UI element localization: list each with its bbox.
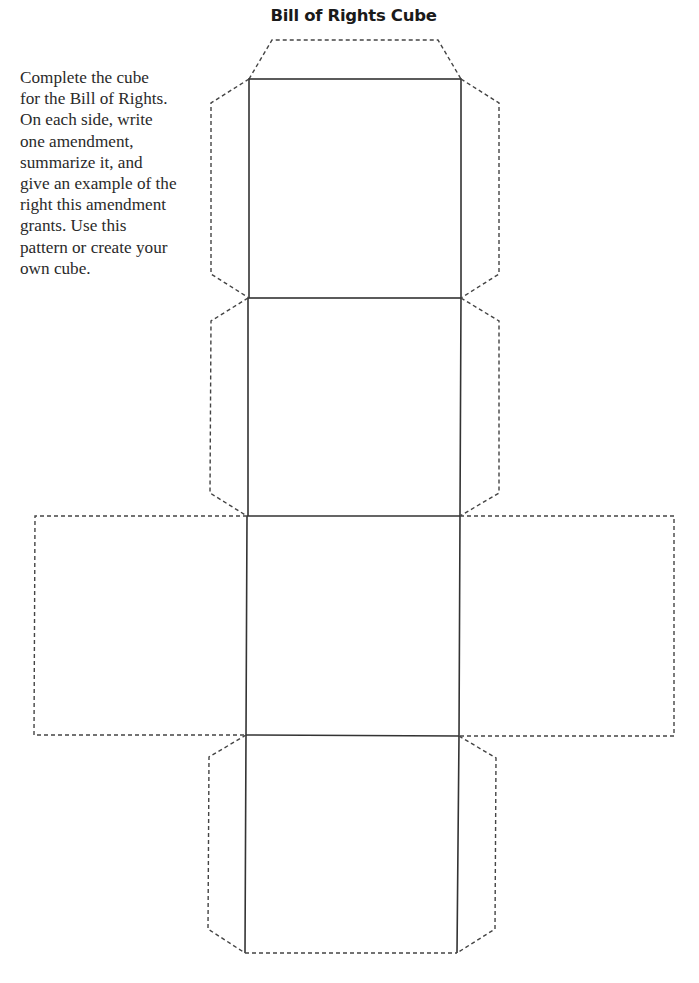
cube-face-4 [245,735,459,953]
left-flap-2 [210,298,248,516]
right-flap-1 [461,79,499,298]
right-flap-2 [460,298,499,516]
cube-face-right [459,516,674,736]
cube-net-diagram [0,0,699,983]
left-flap-4 [208,735,246,953]
left-flap-1 [211,79,249,298]
cube-face-left [34,516,247,735]
top-flap [249,40,461,79]
right-flap-4 [457,736,496,953]
cube-face-3 [246,516,460,736]
cube-face-1 [249,79,461,298]
cube-face-2 [247,298,461,516]
